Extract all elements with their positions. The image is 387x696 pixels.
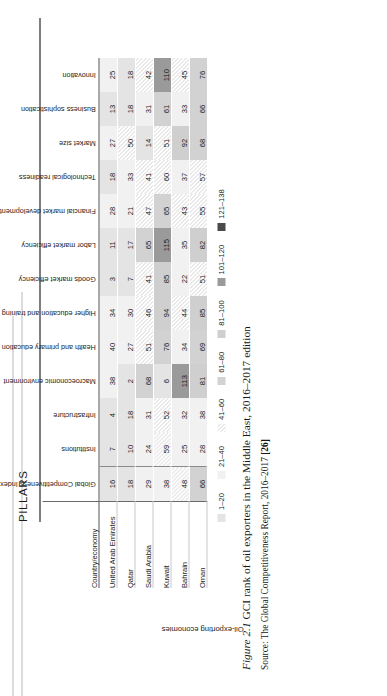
rank-cell: 46 <box>135 296 153 330</box>
rank-cell: 29 <box>135 467 153 502</box>
legend-label: 41–60 <box>216 399 225 420</box>
legend-swatch <box>217 424 225 432</box>
rank-cell: 2 <box>117 364 135 398</box>
rank-cell: 59 <box>153 432 171 467</box>
rank-cell: 13 <box>99 92 117 126</box>
legend-item: 21–40 <box>216 446 225 479</box>
legend-swatch <box>217 377 225 385</box>
table-body: Oil-exporting economiesUnited Arab Emira… <box>99 58 207 670</box>
rank-cell: 44 <box>171 296 189 330</box>
pillars-underline <box>39 18 40 522</box>
column-header-2: Infrastructure <box>42 398 99 432</box>
figure-caption-text: GCI rank of oil exporters in the Middle … <box>239 326 251 619</box>
rank-cell: 41 <box>135 160 153 194</box>
rank-cell: 25 <box>171 432 189 467</box>
caption-block: Figure 2.1 GCI rank of oil exporters in … <box>238 16 269 670</box>
rank-cell: 18 <box>117 92 135 126</box>
rank-cell: 85 <box>153 262 171 296</box>
rank-cell: 48 <box>171 467 189 502</box>
rank-cell: 76 <box>153 330 171 364</box>
table-row: Saudi Arabia29243168514641654741143142 <box>135 58 153 670</box>
gci-rank-table: Country/economy Global Competitiveness I… <box>42 58 207 670</box>
rank-cell: 18 <box>117 58 135 92</box>
rank-cell: 33 <box>171 92 189 126</box>
column-header-1: Institutions <box>42 432 99 467</box>
rank-cell: 37 <box>171 160 189 194</box>
column-header-0: Global Competitiveness Index <box>42 467 99 502</box>
column-header-label: Business sophistication <box>20 106 95 113</box>
rank-cell: 35 <box>171 228 189 262</box>
column-header-9: Technological readiness <box>42 160 99 194</box>
rank-cell: 41 <box>135 262 153 296</box>
column-header-6: Goods market efficiency <box>42 262 99 296</box>
rank-cell: 42 <box>135 58 153 92</box>
legend-label: 81–100 <box>216 300 225 325</box>
column-header-label: Labor market efficiency <box>21 242 95 249</box>
country-name-cell: Kuwait <box>153 502 171 589</box>
rank-cell: 61 <box>153 92 171 126</box>
country-column-header-label: Country/economy <box>89 529 98 589</box>
rank-cell: 33 <box>117 160 135 194</box>
column-header-label: Technological readiness <box>18 174 95 181</box>
rank-cell: 92 <box>171 126 189 160</box>
rank-cell: 31 <box>135 92 153 126</box>
legend-swatch <box>217 223 225 231</box>
rank-cell: 51 <box>189 262 207 296</box>
rank-cell: 68 <box>135 364 153 398</box>
pillars-group-header: PILLARS <box>16 16 42 522</box>
rank-cell: 52 <box>153 398 171 432</box>
legend-item: 121–138 <box>216 189 225 231</box>
rank-cell: 76 <box>189 58 207 92</box>
header-row: Country/economy Global Competitiveness I… <box>42 58 99 670</box>
country-name-cell: Saudi Arabia <box>135 502 153 589</box>
rank-cell: 21 <box>117 194 135 228</box>
rank-cell: 6 <box>153 364 171 398</box>
rank-cell: 38 <box>153 467 171 502</box>
row-group-label-text: Oil-exporting economies <box>161 625 243 634</box>
column-header-5: Higher education and training <box>42 296 99 330</box>
rank-cell: 55 <box>189 194 207 228</box>
legend-item: 41–60 <box>216 399 225 432</box>
rank-cell: 110 <box>153 58 171 92</box>
column-header-7: Labor market efficiency <box>42 228 99 262</box>
legend-item: 61–80 <box>216 352 225 385</box>
country-name-cell: Bahrain <box>171 502 189 589</box>
rank-cell: 11 <box>99 228 117 262</box>
country-name-cell: Qatar <box>117 502 135 589</box>
legend-item: 81–100 <box>216 300 225 337</box>
legend-swatch <box>217 278 225 286</box>
row-group-header-cell <box>42 588 99 670</box>
pillars-label: PILLARS <box>16 470 28 522</box>
rank-cell: 27 <box>117 330 135 364</box>
rank-cell: 7 <box>99 432 117 467</box>
column-header-label: Market size <box>58 140 95 147</box>
table-row: Kuwait385952676948511565605161110 <box>153 58 171 670</box>
figure-caption: Figure 2.1 GCI rank of oil exporters in … <box>238 16 253 670</box>
rank-cell: 18 <box>99 160 117 194</box>
column-header-label: Health and primary education <box>1 344 95 351</box>
column-header-label: Goods market efficiency <box>18 276 95 283</box>
column-header-label: Infrastructure <box>53 412 95 419</box>
rank-cell: 30 <box>117 296 135 330</box>
rank-cell: 17 <box>117 228 135 262</box>
rank-cell: 18 <box>117 398 135 432</box>
column-header-label: Innovation <box>62 72 95 79</box>
page-rule-top <box>12 316 13 696</box>
column-header-label: Global Competitiveness Index <box>0 481 95 488</box>
column-header-label: Institutions <box>61 446 95 453</box>
rank-cell: 31 <box>135 398 153 432</box>
row-group-label: Oil-exporting economies <box>99 588 207 670</box>
column-header-8: Financial market development <box>42 194 99 228</box>
rank-cell: 34 <box>99 296 117 330</box>
rank-cell: 27 <box>99 126 117 160</box>
rank-cell: 66 <box>189 467 207 502</box>
rank-cell: 66 <box>189 92 207 126</box>
table-head: Country/economy Global Competitiveness I… <box>42 58 99 670</box>
figure-source-reference: [26] <box>259 439 269 455</box>
legend: 1–2021–4041–6061–8081–100101–120121–138 <box>216 16 225 522</box>
column-header-3: Macroeconomic environment <box>42 364 99 398</box>
rank-cell: 4 <box>99 398 117 432</box>
rank-cell: 22 <box>171 262 189 296</box>
rank-cell: 38 <box>99 364 117 398</box>
legend-label: 1–20 <box>216 493 225 510</box>
